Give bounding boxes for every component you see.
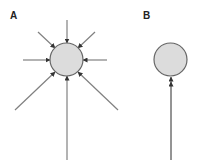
circle-panel-a <box>50 43 83 76</box>
panel-a-label: A <box>10 11 17 21</box>
panel-b <box>154 43 187 160</box>
arrow-bottom-right-panel-a <box>78 72 118 110</box>
diagram-canvas <box>0 0 199 167</box>
arrow-top-left-panel-a <box>38 32 55 48</box>
panel-a <box>15 20 118 160</box>
circle-panel-b <box>154 43 187 76</box>
arrow-top-right-panel-a <box>78 32 95 48</box>
panel-b-label: B <box>143 11 150 21</box>
arrow-bottom-left-panel-a <box>15 72 55 110</box>
